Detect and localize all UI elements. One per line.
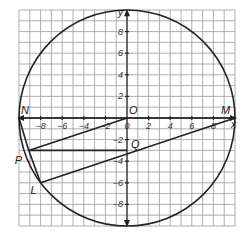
- x-tick-label: −4: [79, 121, 89, 131]
- y-tick-label: 2: [117, 91, 123, 101]
- point-label-M: M: [221, 104, 231, 116]
- point-label-Q: Q: [131, 138, 140, 150]
- y-tick-label: 8: [118, 27, 123, 37]
- x-tick-label: 2: [145, 121, 151, 131]
- x-tick-label: −6: [57, 121, 67, 131]
- point-label-O: O: [129, 104, 138, 116]
- x-tick-label: 4: [168, 121, 173, 131]
- x-tick-label: −8: [35, 121, 45, 131]
- point-label-N: N: [21, 104, 29, 116]
- y-tick-label: −8: [113, 199, 123, 209]
- point-label-L: L: [31, 184, 37, 196]
- point-label-P: P: [15, 154, 23, 166]
- x-tick-label: 0: [124, 121, 129, 131]
- y-tick-label: −2: [113, 135, 123, 145]
- x-axis-label: x: [230, 119, 237, 130]
- y-tick-label: 6: [118, 48, 123, 58]
- coordinate-diagram: −8−6−4−2024688642−2−4−6−8xy NMOPQL: [0, 0, 246, 240]
- y-tick-label: 4: [118, 70, 123, 80]
- x-tick-label: 6: [189, 121, 194, 131]
- y-axis-label: y: [117, 7, 124, 18]
- y-tick-label: −6: [113, 178, 123, 188]
